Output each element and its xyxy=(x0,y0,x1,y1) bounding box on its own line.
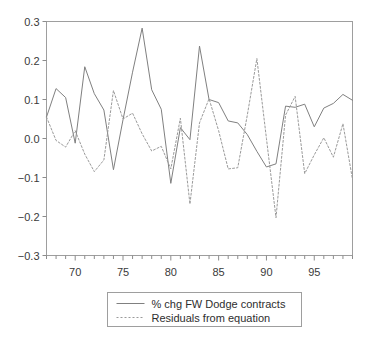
plot-frame xyxy=(47,22,353,256)
y-axis-tick-label: 0.0 xyxy=(24,133,39,145)
x-axis-tick-label: 90 xyxy=(260,266,272,278)
x-axis-tick-label: 80 xyxy=(165,266,177,278)
plot-area: 0.30.20.10.0−0.1−0.2−0.3707580859095% ch… xyxy=(18,16,353,327)
x-axis-tick-label: 95 xyxy=(308,266,320,278)
series-line-1 xyxy=(47,28,353,183)
x-axis-tick-label: 85 xyxy=(213,266,225,278)
chart-figure: 0.30.20.10.0−0.1−0.2−0.3707580859095% ch… xyxy=(0,0,368,337)
y-axis-tick-label: −0.1 xyxy=(18,172,40,184)
legend-label-1: % chg FW Dodge contracts xyxy=(152,298,286,310)
y-axis-tick-label: 0.2 xyxy=(24,55,39,67)
y-axis-tick-label: −0.3 xyxy=(18,250,40,262)
line-chart: 0.30.20.10.0−0.1−0.2−0.3707580859095% ch… xyxy=(0,0,368,337)
x-axis-tick-label: 70 xyxy=(69,266,81,278)
legend-label-2: Residuals from equation xyxy=(152,312,271,324)
y-axis-tick-label: 0.3 xyxy=(24,16,39,28)
y-axis-tick-label: 0.1 xyxy=(24,94,39,106)
x-axis-tick-label: 75 xyxy=(117,266,129,278)
series-line-2 xyxy=(47,59,353,218)
y-axis-tick-label: −0.2 xyxy=(18,211,40,223)
